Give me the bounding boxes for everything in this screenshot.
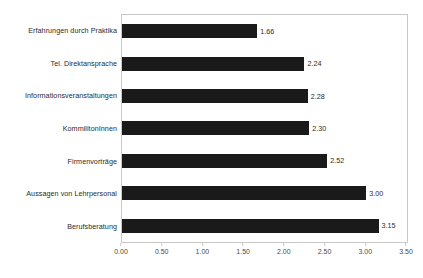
bar-row: 2.28	[122, 80, 407, 112]
category-label: Firmenvorträge	[68, 157, 117, 166]
bar-row: 2.52	[122, 145, 407, 177]
bar[interactable]	[122, 89, 308, 103]
x-axis-tick: 3.00	[358, 243, 372, 255]
x-axis-tick-mark	[283, 243, 284, 246]
category-label: Informationsveranstaltungen	[25, 91, 117, 100]
x-axis-tick-mark	[406, 243, 407, 246]
bar-row: 2.24	[122, 47, 407, 79]
x-axis-tick: 2.00	[277, 243, 291, 255]
x-axis-tick-label: 3.00	[358, 248, 372, 255]
category-label: KommilitonInnen	[63, 124, 117, 133]
bar-row: 1.66	[122, 15, 407, 47]
x-axis-tick: 0.00	[114, 243, 128, 255]
bar-row: 2.30	[122, 112, 407, 144]
bar-value-label: 3.00	[369, 189, 383, 198]
x-axis-tick-mark	[121, 243, 122, 246]
x-axis-tick-label: 0.50	[155, 248, 169, 255]
x-axis-tick-label: 0.00	[114, 248, 128, 255]
x-axis-tick-label: 3.50	[399, 248, 413, 255]
bar-row: 3.15	[122, 210, 407, 242]
x-axis-tick: 2.50	[318, 243, 332, 255]
bar[interactable]	[122, 24, 257, 38]
x-axis-tick: 1.50	[236, 243, 250, 255]
bar-value-label: 2.28	[311, 92, 325, 101]
x-axis-tick-label: 1.00	[196, 248, 210, 255]
x-axis-tick-mark	[243, 243, 244, 246]
category-label-row: Aussagen von Lehrpersonal	[0, 178, 121, 211]
bar[interactable]	[122, 121, 309, 135]
bar[interactable]	[122, 219, 379, 233]
category-label: Aussagen von Lehrpersonal	[26, 189, 117, 198]
bar[interactable]	[122, 186, 366, 200]
x-axis-tick-mark	[161, 243, 162, 246]
category-label: Berufsberatung	[67, 222, 117, 231]
bar[interactable]	[122, 154, 327, 168]
x-axis-tick-mark	[365, 243, 366, 246]
bar-row: 3.00	[122, 177, 407, 209]
x-axis-tick: 1.00	[196, 243, 210, 255]
x-axis-tick-mark	[202, 243, 203, 246]
category-label-row: KommilitonInnen	[0, 112, 121, 145]
category-label: Erfahrungen durch Praktika	[28, 26, 117, 35]
category-label-row: Erfahrungen durch Praktika	[0, 14, 121, 47]
x-axis-tick-label: 1.50	[236, 248, 250, 255]
category-label-row: Informationsveranstaltungen	[0, 79, 121, 112]
x-axis-tick: 3.50	[399, 243, 413, 255]
category-label-row: Berufsberatung	[0, 210, 121, 243]
x-axis-tick-label: 2.00	[277, 248, 291, 255]
x-axis-tick-label: 2.50	[318, 248, 332, 255]
bar-value-label: 2.52	[330, 156, 344, 165]
bar[interactable]	[122, 57, 304, 71]
category-axis: Erfahrungen durch Praktika Tel. Direktan…	[0, 14, 121, 243]
category-label: Tel. Direktansprache	[50, 59, 117, 68]
category-label-row: Firmenvorträge	[0, 145, 121, 178]
plot-area: 1.66 2.24 2.28 2.30 2.52 3.00	[121, 14, 408, 243]
x-axis: 0.000.501.001.502.002.503.003.50	[121, 243, 408, 267]
x-axis-tick: 0.50	[155, 243, 169, 255]
bar-value-label: 2.24	[307, 59, 321, 68]
category-label-row: Tel. Direktansprache	[0, 47, 121, 80]
bar-value-label: 3.15	[382, 221, 396, 230]
bars-layer: 1.66 2.24 2.28 2.30 2.52 3.00	[122, 15, 407, 242]
x-axis-tick-mark	[324, 243, 325, 246]
bar-value-label: 1.66	[260, 27, 274, 36]
bar-chart: Erfahrungen durch Praktika Tel. Direktan…	[0, 0, 423, 278]
bar-value-label: 2.30	[312, 124, 326, 133]
